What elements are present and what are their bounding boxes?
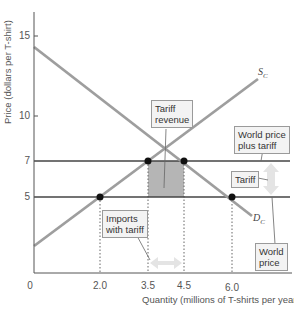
y-tick-7: 7	[8, 155, 30, 166]
y-tick-10: 10	[8, 110, 30, 121]
callout-line: plus tariff	[238, 140, 286, 151]
y-tick-5: 5	[8, 191, 30, 202]
callout-line: World	[259, 246, 284, 257]
callout-line: World price	[238, 129, 286, 140]
supply-subscript: C	[263, 72, 268, 80]
callout-line: Tariff	[235, 174, 255, 185]
world-price-plus-tariff-callout: World price plus tariff	[234, 126, 290, 154]
world-price-callout: World price	[255, 243, 288, 271]
demand-curve	[34, 47, 252, 216]
demand-curve-label: DC	[253, 212, 265, 226]
x-tick-6: 6.0	[220, 282, 244, 293]
callout-line: price	[259, 257, 284, 268]
tariff-revenue-callout: Tariff revenue	[151, 100, 193, 128]
x-tick-2: 2.0	[88, 280, 112, 291]
supply-curve-label: SC	[258, 66, 268, 80]
x-tick-4-5: 4.5	[172, 280, 196, 291]
y-tick-15: 15	[8, 30, 30, 41]
imports-arrow-icon	[150, 257, 182, 269]
callout-line: with tariff	[106, 224, 144, 235]
callout-line: revenue	[155, 114, 189, 125]
callout-line: Imports	[106, 213, 144, 224]
chart-canvas	[0, 0, 294, 313]
imports-with-tariff-callout: Imports with tariff	[102, 210, 148, 238]
callout-line: Tariff	[155, 103, 189, 114]
tariff-arrow-icon	[263, 163, 279, 195]
demand-subscript: C	[260, 218, 265, 226]
tariff-callout: Tariff	[231, 171, 259, 188]
tariff-revenue-area	[148, 161, 184, 197]
x-axis-label: Quantity (millions of T-shirts per year)	[142, 294, 294, 305]
x-tick-0: 0	[18, 280, 42, 291]
x-tick-3-5: 3.5	[136, 280, 160, 291]
